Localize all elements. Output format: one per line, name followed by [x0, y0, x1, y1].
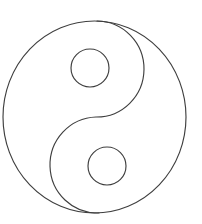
drawing-canvas [0, 0, 202, 224]
yin-yang-figure [0, 0, 202, 224]
canvas-background [0, 0, 202, 224]
